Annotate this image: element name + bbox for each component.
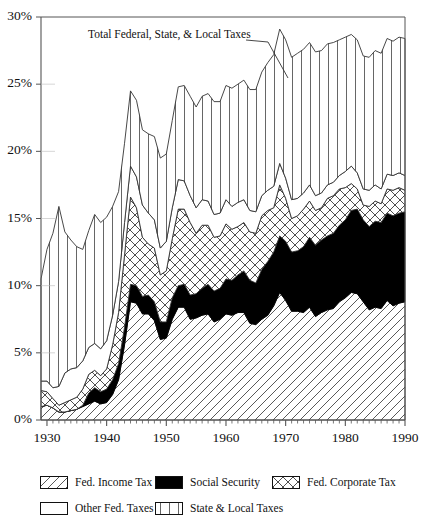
- legend-swatch-cross-hatch: [272, 476, 300, 489]
- x-tick-label: 1930: [29, 430, 65, 446]
- legend-label: Social Security: [190, 476, 260, 488]
- x-tick-label: 1970: [268, 430, 304, 446]
- legend-item-state-local-taxes[interactable]: State & Local Taxes: [155, 502, 283, 515]
- area-layers: [41, 29, 405, 420]
- legend-label: State & Local Taxes: [190, 502, 283, 514]
- legend-label: Fed. Income Tax: [75, 476, 152, 488]
- x-tick-label: 1940: [89, 430, 125, 446]
- legend-swatch-vertical-lines: [155, 502, 183, 515]
- legend-swatch-diagonal-hatch: [40, 476, 68, 489]
- y-tick-label: 25%: [0, 75, 32, 91]
- legend-item-fed-corporate-tax[interactable]: Fed. Corporate Tax: [272, 476, 396, 489]
- y-tick-label: 0%: [0, 411, 32, 427]
- legend-item-social-security[interactable]: Social Security: [155, 476, 260, 489]
- x-tick-label: 1950: [148, 430, 184, 446]
- x-tick-label: 1980: [327, 430, 363, 446]
- x-tick-label: 1960: [208, 430, 244, 446]
- legend-label: Other Fed. Taxes: [75, 502, 154, 514]
- legend-item-other-fed-taxes[interactable]: Other Fed. Taxes: [40, 502, 154, 515]
- stacked-area-chart: [0, 0, 424, 470]
- chart-container: 30%25%20%15%10%5%0% 19301940195019601970…: [0, 0, 424, 526]
- legend-swatch-blank: [40, 502, 68, 515]
- y-tick-label: 5%: [0, 344, 32, 360]
- legend-swatch-solid-black: [155, 476, 183, 489]
- y-tick-label: 30%: [0, 8, 32, 24]
- total-taxes-annotation: Total Federal, State, & Local Taxes: [88, 28, 251, 40]
- legend-row-2: Other Fed. TaxesState & Local Taxes: [0, 496, 424, 520]
- x-tick-label: 1990: [387, 430, 423, 446]
- y-tick-label: 10%: [0, 277, 32, 293]
- legend-row-1: Fed. Income TaxSocial SecurityFed. Corpo…: [0, 470, 424, 494]
- legend-label: Fed. Corporate Tax: [307, 476, 396, 488]
- legend-item-fed-income-tax[interactable]: Fed. Income Tax: [40, 476, 152, 489]
- y-tick-label: 15%: [0, 210, 32, 226]
- chart-legend: Fed. Income TaxSocial SecurityFed. Corpo…: [0, 470, 424, 526]
- y-tick-label: 20%: [0, 142, 32, 158]
